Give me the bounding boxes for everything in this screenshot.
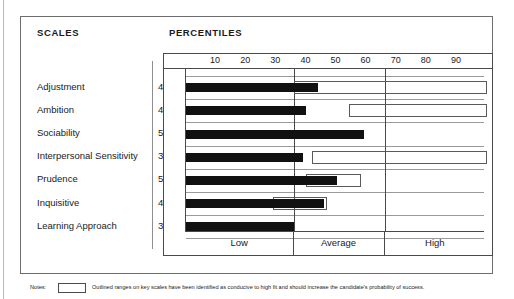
- bar: [186, 153, 303, 162]
- grid-line: [186, 99, 484, 100]
- report-card: SCALES PERCENTILES AdjustmentAmbitionSoc…: [20, 16, 493, 274]
- band-label-strip: LowAverageHigh: [185, 231, 484, 255]
- band-strip-divider: [293, 232, 294, 255]
- scale-label: Inquisitive: [37, 197, 79, 208]
- bar: [186, 83, 318, 92]
- axis-tick-60: 60: [361, 55, 371, 65]
- bar: [186, 130, 364, 139]
- grid-line: [186, 169, 484, 170]
- axis-tick-50: 50: [330, 55, 340, 65]
- axis-tick-10: 10: [210, 55, 220, 65]
- scale-label: Adjustment: [37, 81, 85, 92]
- band-label-average: Average: [321, 237, 356, 248]
- scale-label: Ambition: [37, 104, 74, 115]
- page-edge-rule: [3, 0, 4, 299]
- card-header: SCALES PERCENTILES: [21, 27, 492, 43]
- notes-row: Notes: Outlined ranges on key scales hav…: [20, 283, 493, 295]
- percentile-chart: 102030405060708090 LowAverageHigh: [163, 53, 493, 256]
- grid-line: [186, 146, 484, 147]
- notes-label: Notes:: [30, 284, 46, 290]
- bar: [186, 199, 324, 208]
- bar: [186, 106, 306, 115]
- outlined-range: [294, 81, 487, 94]
- notes-legend-swatch: [58, 283, 86, 293]
- axis-tick-80: 80: [421, 55, 431, 65]
- band-label-high: High: [425, 237, 445, 248]
- notes-text: Outlined ranges on key scales have been …: [92, 284, 424, 290]
- axis-tick-90: 90: [451, 55, 461, 65]
- band-strip-divider: [384, 232, 385, 255]
- scales-heading: SCALES: [37, 27, 79, 38]
- label-column-divider: [152, 61, 153, 249]
- grid-line: [186, 192, 484, 193]
- scale-label: Prudence: [37, 173, 78, 184]
- percentiles-heading: PERCENTILES: [169, 27, 242, 38]
- grid-line: [186, 76, 484, 77]
- grid-line: [186, 215, 484, 216]
- axis-tick-70: 70: [391, 55, 401, 65]
- scale-label: Learning Approach: [37, 220, 117, 231]
- axis-tick-strip: 102030405060708090: [164, 54, 492, 69]
- grid-line: [186, 122, 484, 123]
- bar: [186, 222, 294, 231]
- axis-tick-30: 30: [270, 55, 280, 65]
- scale-label: Interpersonal Sensitivity: [37, 150, 138, 161]
- axis-tick-20: 20: [240, 55, 250, 65]
- axis-tick-40: 40: [300, 55, 310, 65]
- outlined-range: [349, 104, 487, 117]
- band-label-low: Low: [230, 237, 247, 248]
- chart-plot-area: [185, 69, 484, 231]
- scale-label: Sociability: [37, 127, 80, 138]
- bar: [186, 176, 337, 185]
- outlined-range: [312, 151, 487, 164]
